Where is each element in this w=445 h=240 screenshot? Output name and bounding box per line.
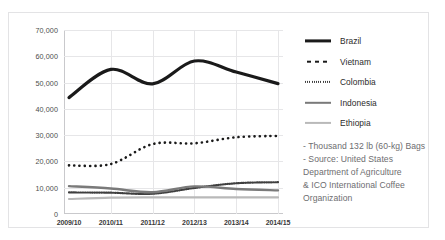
chart-frame: 70,00060,00050,00040,00030,00020,00010,0… [8, 12, 429, 228]
legend-item-label: Ethiopia [340, 118, 371, 128]
y-axis-tick-label: 30,000 [35, 131, 64, 140]
y-axis-tick-label: 0 [54, 210, 64, 219]
y-axis-tick-label: 50,000 [35, 78, 64, 87]
legend-swatch-dotted [305, 60, 331, 63]
series-line-vietnam [69, 136, 278, 166]
legend-swatch-icon [305, 77, 331, 87]
legend-swatch-fine-dotted [305, 81, 331, 83]
y-axis-tick-label: 40,000 [35, 104, 64, 113]
x-axis-tick-label: 2012/13 [182, 219, 207, 226]
legend-swatch-icon [305, 36, 331, 46]
y-axis-tick-label: 20,000 [35, 157, 64, 166]
note-units: - Thousand 132 lb (60-kg) Bags [303, 140, 429, 153]
series-lines [64, 30, 283, 214]
legend-swatch-solid [305, 122, 331, 124]
legend-item-vietnam[interactable]: Vietnam [305, 52, 425, 73]
legend-item-label: Colombia [340, 77, 376, 87]
legend-swatch-icon [305, 118, 331, 128]
line-chart: 70,00060,00050,00040,00030,00020,00010,0… [9, 13, 299, 229]
y-axis-tick-label: 60,000 [35, 52, 64, 61]
chart-legend: BrazilVietnamColombiaIndonesiaEthiopia [305, 31, 425, 134]
legend-item-indonesia[interactable]: Indonesia [305, 93, 425, 114]
legend-swatch-solid [305, 102, 331, 104]
x-axis-tick-label: 2009/10 [57, 219, 82, 226]
x-axis-tick-label: 2011/12 [140, 219, 164, 226]
x-axis-tick-label: 2013/14 [224, 219, 249, 226]
x-axis-tick-label: 2014/15 [266, 219, 291, 226]
note-source-3: & ICO International Coffee [303, 179, 429, 192]
y-axis-tick-label: 10,000 [35, 183, 64, 192]
note-source-4: Organization [303, 192, 429, 205]
series-line-brazil [69, 61, 278, 98]
legend-item-ethiopia[interactable]: Ethiopia [305, 113, 425, 134]
legend-item-label: Vietnam [340, 57, 371, 67]
y-axis-tick-label: 70,000 [35, 26, 64, 35]
legend-item-label: Indonesia [340, 98, 377, 108]
legend-item-colombia[interactable]: Colombia [305, 72, 425, 93]
legend-swatch-solid [305, 40, 331, 43]
note-source-2: Department of Agriculture [303, 166, 429, 179]
x-axis-tick-label: 2010/11 [99, 219, 123, 226]
series-line-ethiopia [69, 197, 278, 199]
plot-area: 70,00060,00050,00040,00030,00020,00010,0… [64, 30, 283, 214]
legend-item-label: Brazil [340, 36, 361, 46]
legend-swatch-icon [305, 57, 331, 67]
legend-swatch-icon [305, 98, 331, 108]
note-source-1: - Source: United States [303, 153, 429, 166]
chart-notes: - Thousand 132 lb (60-kg) Bags - Source:… [303, 140, 429, 205]
legend-item-brazil[interactable]: Brazil [305, 31, 425, 52]
